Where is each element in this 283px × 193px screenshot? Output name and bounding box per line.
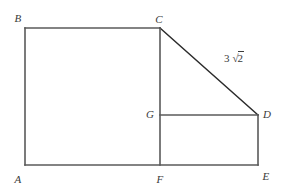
- segment-CD: [160, 28, 258, 115]
- length-coefficient: 3: [224, 52, 230, 64]
- radicand-value: 2: [238, 51, 245, 64]
- vertex-label-A: A: [15, 174, 22, 185]
- vertex-label-B: B: [15, 13, 22, 24]
- length-label-CD: 3√2: [224, 52, 244, 64]
- figure-canvas: [0, 0, 283, 193]
- vertex-label-F: F: [157, 174, 164, 185]
- vertex-label-G: G: [146, 109, 154, 120]
- geometry-figure: B C G D A F E 3√2: [0, 0, 283, 193]
- vertex-label-E: E: [263, 171, 270, 182]
- vertex-label-C: C: [155, 14, 163, 25]
- vertex-label-D: D: [263, 109, 271, 120]
- radical-expression: √2: [231, 52, 244, 64]
